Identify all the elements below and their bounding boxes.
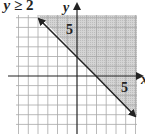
x-axis-label: x xyxy=(140,72,145,87)
y-tick-label-5: 5 xyxy=(66,22,73,37)
x-tick-label-5: 5 xyxy=(121,80,128,95)
inequality-graph: y x 5 5 xyxy=(0,0,145,134)
y-axis-label: y xyxy=(61,0,70,15)
